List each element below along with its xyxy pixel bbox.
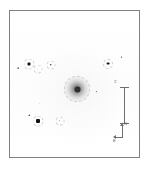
star-point-source <box>36 119 40 123</box>
image-frame: 1' N E <box>9 10 140 158</box>
scale-bar-label: 1' <box>114 79 117 84</box>
compass-north-label: N <box>124 122 127 126</box>
star-point-source <box>13 78 14 79</box>
compass-east-label: E <box>113 139 116 143</box>
star-point-source <box>59 120 61 122</box>
star-point-source <box>17 67 19 69</box>
image-viewer[interactable]: 1' N E <box>0 0 150 170</box>
annotation-circle <box>64 76 90 102</box>
star-point-source <box>29 115 31 117</box>
orientation-compass: N E <box>113 122 131 144</box>
star-point-source <box>27 63 30 66</box>
scale-bar: 1' <box>115 83 131 123</box>
star-point-source <box>107 62 110 65</box>
scale-bar-line <box>124 87 125 123</box>
star-point-source <box>121 56 123 58</box>
compass-east-axis <box>115 137 123 138</box>
